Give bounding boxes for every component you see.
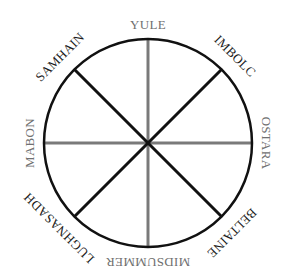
wheel-diagram: YULE IMBOLC OSTARA BELTAINE MIDSUMMER LU… (0, 0, 291, 279)
label-mabon: MABON (22, 118, 37, 168)
label-lughnasadh: LUGHNASADH (21, 190, 98, 267)
label-yule: YULE (130, 17, 166, 32)
label-ostara: OSTARA (259, 117, 274, 170)
label-midsummer: MIDSUMMER (106, 255, 190, 270)
label-beltaine: BELTAINE (204, 205, 260, 261)
